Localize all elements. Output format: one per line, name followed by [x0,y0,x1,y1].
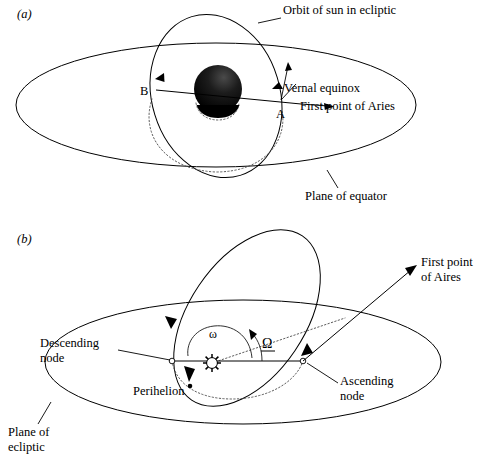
perihelion-marker [188,384,193,389]
orbit-ellipse-b [144,203,351,432]
panel-b-label: (b) [17,232,32,246]
ascending-node-leader [307,363,338,383]
ascending-node-line2: node [340,389,365,403]
first-point-b-line2: of Aires [421,270,461,284]
omega-arc [188,326,252,358]
plane-of-ecliptic-line2: ecliptic [8,440,45,454]
aries-reference-dotted [212,318,345,363]
plane-of-equator-label: Plane of equator [305,189,388,203]
astronomy-figure: (a) Orbit of sun in ecliptic Vernal equi… [0,0,489,468]
node-b-label: B [140,84,148,98]
descending-node-marker [169,358,175,364]
raan-symbol-group: Ω [261,336,275,351]
figure-canvas: (a) Orbit of sun in ecliptic Vernal equi… [0,0,489,468]
panel-a-label: (a) [17,7,32,21]
panel-b: (b) First point of Aires Descending node… [8,203,473,454]
descending-node-leader [118,350,170,360]
descending-node-line1: Descending [40,336,100,350]
orbit-direction-arrow-right [272,82,283,89]
node-a-label: A [276,107,285,121]
aries-arrow-b [303,270,411,361]
ecliptic-plane-ellipse [45,300,441,424]
vernal-equinox-label: Vernal equinox [284,81,361,95]
descending-node-line2: node [40,351,65,365]
perihelion-label: Perihelion [133,384,185,398]
omega-arrowhead [184,366,195,382]
ascending-node-line1: Ascending [340,374,394,388]
ecliptic-plane-leader [38,402,51,424]
vernal-equinox-arrowhead [285,62,292,71]
argument-of-perihelion-symbol: ω [209,327,217,341]
plane-of-ecliptic-line1: Plane of [8,425,50,439]
orbit-label-leader [258,18,281,23]
orbit-arrow-descending [165,316,177,329]
panel-a: (a) Orbit of sun in ecliptic Vernal equi… [16,0,416,203]
raan-symbol: Ω [262,336,272,351]
equator-label-leader [327,170,338,188]
first-point-of-aries-label: First point of Aries [300,99,395,113]
first-point-b-line1: First point [421,255,473,269]
aries-arrowhead-b [405,265,417,276]
orbit-direction-arrow-left [155,73,165,82]
earth-globe [194,65,242,118]
orbit-of-sun-label: Orbit of sun in ecliptic [283,3,397,17]
sun-symbol [203,354,221,372]
